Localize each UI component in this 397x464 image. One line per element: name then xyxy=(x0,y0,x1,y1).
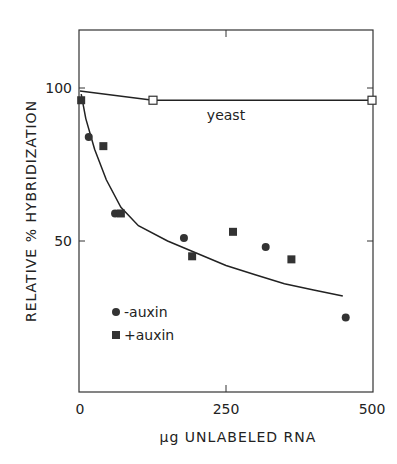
data-point xyxy=(368,96,376,104)
data-point xyxy=(229,228,237,236)
legend-marker xyxy=(112,308,120,316)
data-point xyxy=(180,234,188,242)
yeast-fit xyxy=(80,91,372,100)
axes: 025050050100 xyxy=(45,30,385,417)
x-axis-label: μg UNLABELED RNA xyxy=(160,429,317,445)
data-point xyxy=(287,255,295,263)
legend-marker xyxy=(112,331,120,339)
legend-label: -auxin xyxy=(124,304,168,320)
y-tick-label: 100 xyxy=(45,80,72,96)
data-point xyxy=(149,96,157,104)
y-tick-label: 50 xyxy=(54,233,72,249)
x-tick-label: 500 xyxy=(359,401,386,417)
yeast-annotation: yeast xyxy=(207,107,246,123)
legend-label: +auxin xyxy=(124,327,174,343)
legend: -auxin+auxin xyxy=(112,304,174,343)
data-point xyxy=(188,252,196,260)
data-point xyxy=(262,243,270,251)
auxin-fit xyxy=(81,94,343,296)
x-tick-label: 250 xyxy=(213,401,240,417)
data-point xyxy=(85,133,93,141)
chart: 025050050100 yeast -auxin+auxin RELATIVE… xyxy=(0,0,397,464)
x-tick-label: 0 xyxy=(76,401,85,417)
data-point xyxy=(342,314,350,322)
y-axis-label: RELATIVE % HYBRIDIZATION xyxy=(23,100,39,322)
data-point xyxy=(77,96,85,104)
data-point xyxy=(99,142,107,150)
data-point xyxy=(117,209,125,217)
